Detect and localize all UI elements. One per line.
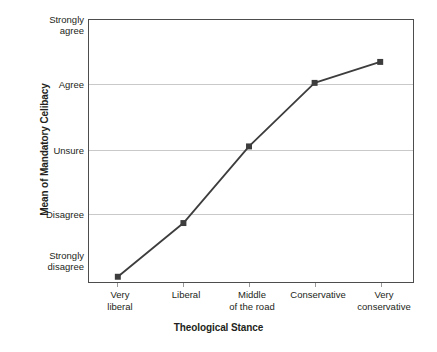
y-tick-line2: agree xyxy=(60,25,84,36)
y-tick-line1: Strongly xyxy=(49,250,84,261)
data-point-2 xyxy=(246,143,252,149)
y-tick-line1: Unsure xyxy=(53,145,84,156)
y-tick-line2: disagree xyxy=(48,261,84,272)
data-point-1 xyxy=(180,220,186,226)
x-tickmark-1 xyxy=(183,283,184,287)
x-tickmark-3 xyxy=(315,283,316,287)
data-point-4 xyxy=(377,59,383,65)
y-tick-line1: Agree xyxy=(59,79,84,90)
x-tick-line1: Middle xyxy=(238,289,266,300)
y-tick-line1: Disagree xyxy=(46,209,84,220)
x-tickmark-2 xyxy=(249,283,250,287)
series-polyline xyxy=(118,62,380,277)
data-point-0 xyxy=(115,274,121,280)
x-axis-title: Theological Stance xyxy=(0,322,437,333)
data-point-3 xyxy=(312,80,318,86)
plot-area xyxy=(88,19,414,283)
chart-figure: Mean of Mandatory Celibacy Strongly agre… xyxy=(0,0,437,352)
x-tick-line2: liberal xyxy=(107,301,132,312)
x-tickmark-4 xyxy=(381,283,382,287)
y-tick-agree: Agree xyxy=(22,79,84,90)
y-tick-unsure: Unsure xyxy=(22,145,84,156)
y-tick-disagree: Disagree xyxy=(22,209,84,220)
x-tick-line2: of the road xyxy=(229,301,274,312)
x-tick-line1: Very xyxy=(374,289,393,300)
x-tick-line2: conservative xyxy=(357,301,410,312)
x-tick-line1: Liberal xyxy=(172,289,201,300)
data-series-line xyxy=(89,20,413,282)
x-tickmark-0 xyxy=(117,283,118,287)
x-tick-very-conservative: Very conservative xyxy=(329,289,437,312)
y-tick-strongly-disagree: Strongly disagree xyxy=(22,250,84,272)
y-tick-strongly-agree: Strongly agree xyxy=(22,14,84,36)
y-tick-line1: Strongly xyxy=(49,14,84,25)
x-tick-line1: Very xyxy=(110,289,129,300)
